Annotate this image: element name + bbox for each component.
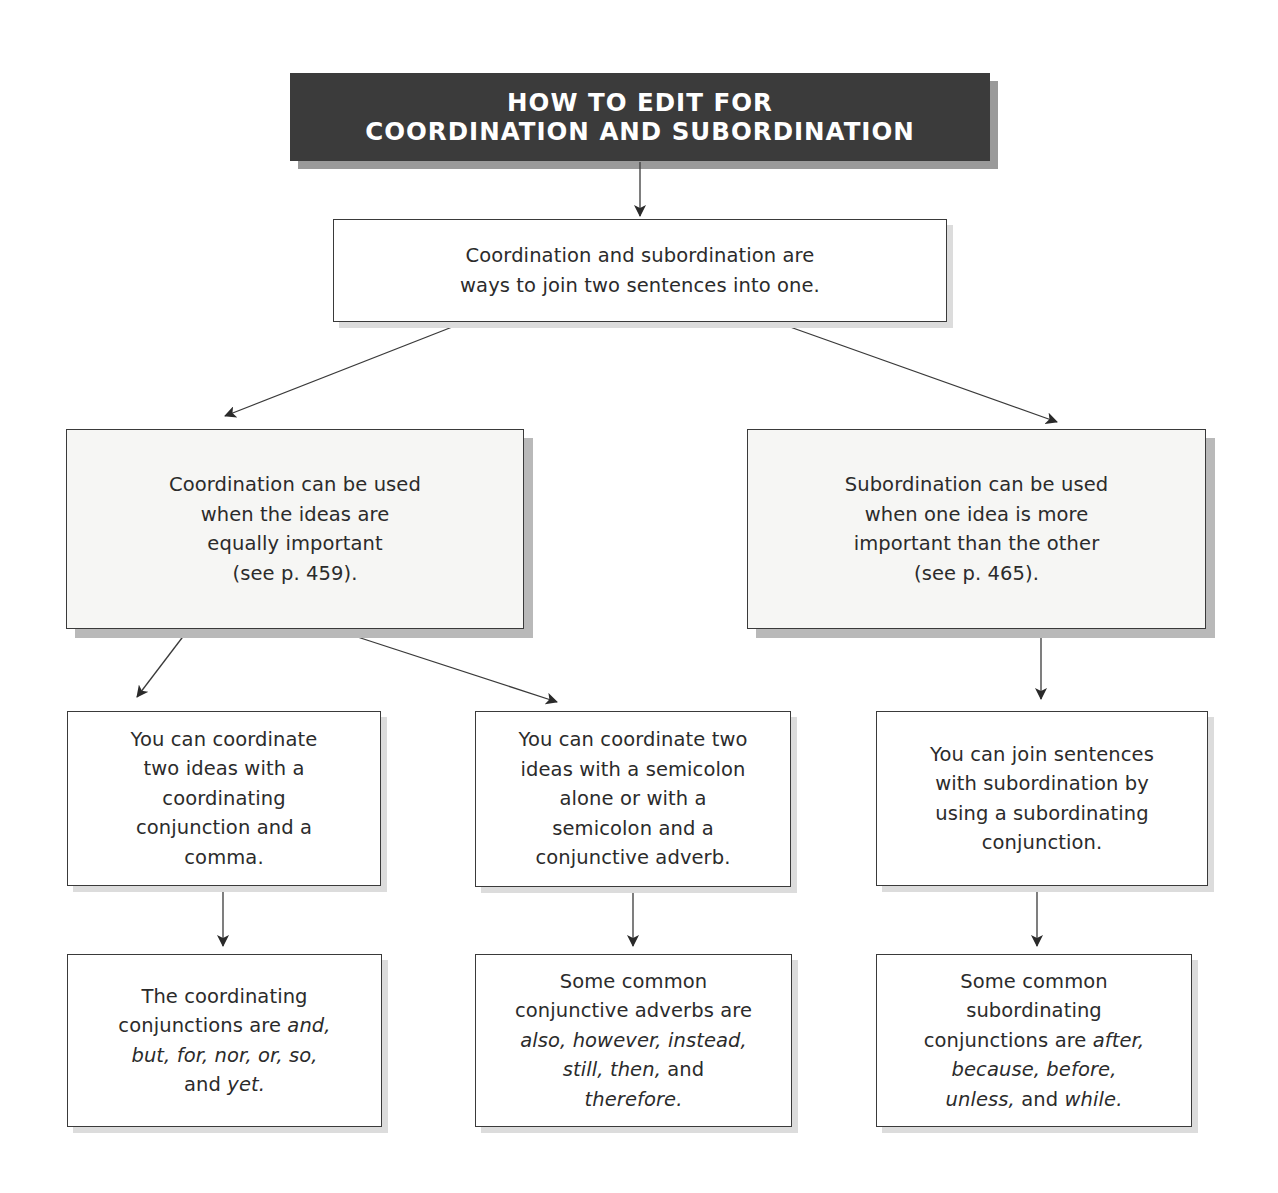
- examples-line: but, for, nor, or, so,: [118, 1041, 330, 1071]
- examples-italic-term: but, for, nor, or, so,: [131, 1044, 317, 1067]
- examples-italic-term: after,: [1093, 1029, 1144, 1052]
- coordinating-conjunctions-examples-box: The coordinating conjunctions are and, b…: [67, 954, 382, 1127]
- examples-line: also, however, instead,: [515, 1026, 752, 1056]
- intro-line: Coordination and subordination are: [460, 241, 820, 271]
- examples-plain: and: [661, 1058, 704, 1081]
- conjunctive-adverbs-examples-box: Some common conjunctive adverbs are also…: [475, 954, 792, 1127]
- diagram-title: HOW TO EDIT FOR COORDINATION AND SUBORDI…: [290, 73, 990, 161]
- method-line: You can coordinate two: [519, 725, 748, 755]
- subordination-box: Subordination can be used when one idea …: [747, 429, 1206, 629]
- examples-plain: conjunctions are: [118, 1014, 287, 1037]
- examples-line: because, before,: [924, 1055, 1145, 1085]
- examples-italic-term: and,: [287, 1014, 330, 1037]
- examples-italic-term: also, however, instead,: [520, 1029, 747, 1052]
- subordination-page-ref: (see p. 465).: [845, 559, 1109, 589]
- arrow-coordination-to-conjunction: [137, 630, 188, 697]
- subordination-line: Subordination can be used: [845, 470, 1109, 500]
- examples-line: and yet.: [118, 1070, 330, 1100]
- semicolon-method-box: You can coordinate two ideas with a semi…: [475, 711, 791, 887]
- examples-line: conjunctions are and,: [118, 1011, 330, 1041]
- method-line: with subordination by: [930, 769, 1154, 799]
- subordination-line: when one idea is more: [845, 500, 1109, 530]
- examples-italic-term: yet.: [227, 1073, 265, 1096]
- method-line: coordinating: [131, 784, 318, 814]
- examples-plain: and: [184, 1073, 227, 1096]
- method-line: semicolon and a: [519, 814, 748, 844]
- title-line-1: HOW TO EDIT FOR: [507, 88, 773, 117]
- method-line: using a subordinating: [930, 799, 1154, 829]
- method-line: alone or with a: [519, 784, 748, 814]
- method-line: conjunctive adverb.: [519, 843, 748, 873]
- coordination-line: equally important: [169, 529, 421, 559]
- method-line: ideas with a semicolon: [519, 755, 748, 785]
- coordination-line: Coordination can be used: [169, 470, 421, 500]
- examples-line: Some common: [924, 967, 1145, 997]
- examples-italic-term: because, before,: [952, 1058, 1117, 1081]
- method-line: You can join sentences: [930, 740, 1154, 770]
- method-line: conjunction.: [930, 828, 1154, 858]
- coordination-box: Coordination can be used when the ideas …: [66, 429, 524, 629]
- intro-text: Coordination and subordination are ways …: [460, 241, 820, 300]
- method-line: conjunction and a: [131, 813, 318, 843]
- examples-line: conjunctions are after,: [924, 1026, 1145, 1056]
- subordination-text: Subordination can be used when one idea …: [845, 470, 1109, 588]
- arrow-intro-to-subordination: [776, 322, 1057, 422]
- arrow-intro-to-coordination: [225, 322, 465, 416]
- examples-line: Some common: [515, 967, 752, 997]
- coordination-line: when the ideas are: [169, 500, 421, 530]
- method-line: comma.: [131, 843, 318, 873]
- examples-text: Some common subordinating conjunctions a…: [924, 967, 1145, 1115]
- examples-plain: and: [1015, 1088, 1065, 1111]
- method-text: You can join sentences with subordinatio…: [930, 740, 1154, 858]
- subordination-line: important than the other: [845, 529, 1109, 559]
- examples-italic-term: unless,: [946, 1088, 1015, 1111]
- coordination-page-ref: (see p. 459).: [169, 559, 421, 589]
- coordination-text: Coordination can be used when the ideas …: [169, 470, 421, 588]
- coordinating-conjunction-method-box: You can coordinate two ideas with a coor…: [67, 711, 381, 886]
- method-line: two ideas with a: [131, 754, 318, 784]
- examples-text: The coordinating conjunctions are and, b…: [118, 982, 330, 1100]
- arrow-coordination-to-semicolon: [336, 630, 557, 702]
- title-line-2: COORDINATION AND SUBORDINATION: [365, 117, 915, 146]
- examples-line: unless, and while.: [924, 1085, 1145, 1115]
- subordinating-conjunction-method-box: You can join sentences with subordinatio…: [876, 711, 1208, 886]
- method-line: You can coordinate: [131, 725, 318, 755]
- method-text: You can coordinate two ideas with a coor…: [131, 725, 318, 873]
- subordinating-conjunctions-examples-box: Some common subordinating conjunctions a…: [876, 954, 1192, 1127]
- examples-line: The coordinating: [118, 982, 330, 1012]
- examples-italic-term: therefore.: [584, 1088, 682, 1111]
- examples-plain: conjunctions are: [924, 1029, 1093, 1052]
- intro-line: ways to join two sentences into one.: [460, 271, 820, 301]
- examples-italic-term: still, then,: [563, 1058, 661, 1081]
- examples-line: subordinating: [924, 996, 1145, 1026]
- intro-box: Coordination and subordination are ways …: [333, 219, 947, 322]
- examples-line: still, then, and: [515, 1055, 752, 1085]
- examples-line: conjunctive adverbs are: [515, 996, 752, 1026]
- examples-italic-term: while.: [1065, 1088, 1123, 1111]
- examples-text: Some common conjunctive adverbs are also…: [515, 967, 752, 1115]
- method-text: You can coordinate two ideas with a semi…: [519, 725, 748, 873]
- examples-line: therefore.: [515, 1085, 752, 1115]
